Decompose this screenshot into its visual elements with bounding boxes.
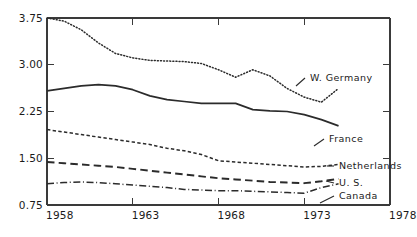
chart-canvas: 0.751.502.253.003.75 1958196319681973197… — [0, 0, 417, 237]
chart-background — [0, 0, 417, 237]
series-label-france: France — [329, 133, 363, 144]
x-axis-label-1978: 1978 — [389, 209, 417, 221]
series-label-canada: Canada — [339, 190, 378, 201]
x-axis-label-1973: 1973 — [303, 209, 331, 221]
y-axis-label-3.75: 3.75 — [19, 12, 43, 24]
series-label-w-germany: W. Germany — [310, 72, 373, 83]
line-chart: 0.751.502.253.003.75 1958196319681973197… — [0, 0, 417, 237]
x-axis-label-1968: 1968 — [218, 209, 246, 221]
y-axis-label-2.25: 2.25 — [19, 105, 43, 117]
series-label-netherlands: Netherlands — [339, 160, 402, 171]
y-axis-label-3.00: 3.00 — [19, 58, 43, 70]
x-axis-label-1958: 1958 — [46, 209, 74, 221]
y-axis-label-0.75: 0.75 — [19, 199, 43, 211]
series-label-u-s: U. S. — [339, 177, 363, 188]
y-axis-label-1.50: 1.50 — [19, 152, 43, 164]
x-axis-label-1963: 1963 — [132, 209, 160, 221]
